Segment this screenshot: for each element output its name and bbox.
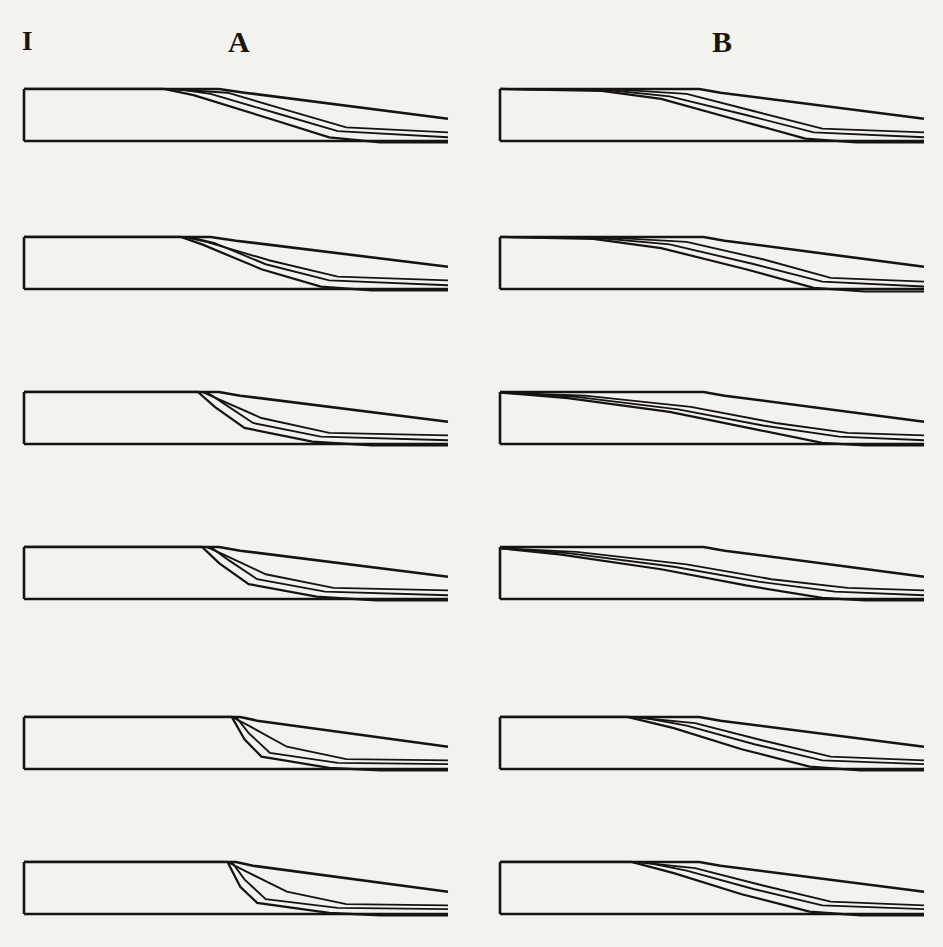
profile-panel-b5 xyxy=(484,690,935,800)
profile-panel-a5 xyxy=(8,690,459,800)
panel-top-line-b2 xyxy=(500,237,924,267)
figure-header: I A B xyxy=(0,0,943,62)
panel-a3-trace-3 xyxy=(24,392,448,445)
profile-panel-a3 xyxy=(8,365,459,475)
profile-panel-a2 xyxy=(8,210,459,320)
profile-panel-a4 xyxy=(8,520,459,630)
panel-top-line-b1 xyxy=(500,89,924,119)
panel-a5-trace-3 xyxy=(24,717,448,770)
panel-top-line-a1 xyxy=(24,89,448,119)
plate-label: I xyxy=(22,28,33,55)
profile-panel-a6 xyxy=(8,835,459,945)
profile-panel-b3 xyxy=(484,365,935,475)
panel-a6-trace-2 xyxy=(24,862,448,909)
column-header-a: A xyxy=(228,27,250,57)
profile-panel-b4 xyxy=(484,520,935,630)
profile-panel-a1 xyxy=(8,62,459,172)
panel-a4-trace-3 xyxy=(24,547,448,600)
profile-panel-b6 xyxy=(484,835,935,945)
panel-top-line-a5 xyxy=(24,717,448,747)
profile-panel-b1 xyxy=(484,62,935,172)
panel-top-line-a4 xyxy=(24,547,448,577)
panel-grid xyxy=(0,62,943,947)
panel-a6-trace-3 xyxy=(24,862,448,915)
panel-a3-trace-2 xyxy=(24,392,448,440)
profile-panel-b2 xyxy=(484,210,935,320)
column-header-b: B xyxy=(712,27,732,57)
figure-root: I A B xyxy=(0,0,943,947)
